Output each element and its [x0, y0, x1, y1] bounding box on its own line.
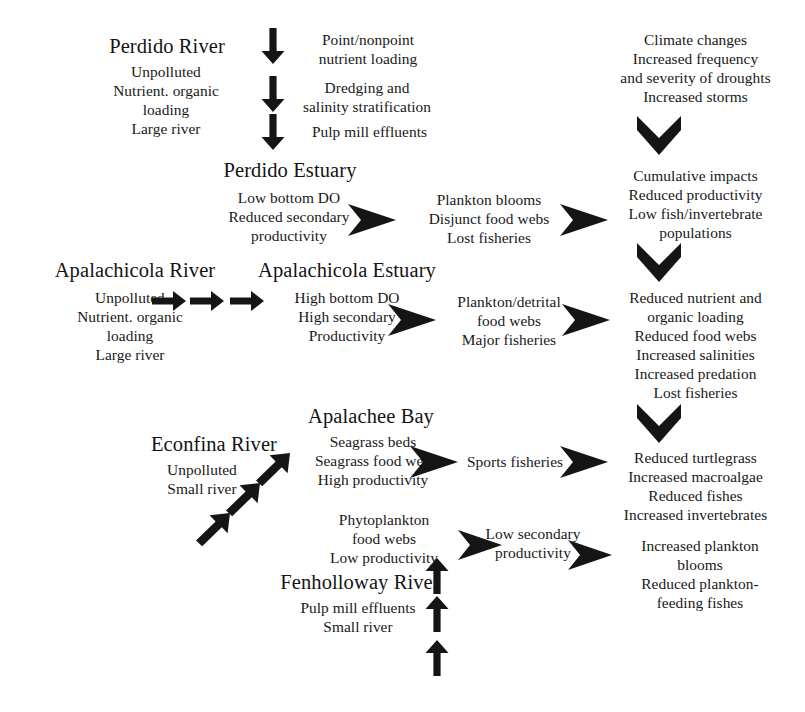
econfina-diagonal-arrow-1	[196, 513, 232, 547]
node-climate-changes: Climate changes Increased frequency and …	[588, 30, 803, 106]
node-perdido-effects: Plankton blooms Disjunct food webs Lost …	[398, 190, 580, 247]
node-apalachicola-river-heading: Apalachicola River	[30, 258, 240, 283]
node-fenholloway-river-heading: Fenholloway River	[250, 570, 470, 595]
node-perdido-river-heading: Perdido River	[72, 34, 262, 59]
node-perdido-stressors-3: Pulp mill effluents	[287, 122, 452, 141]
apalachicola-right-arrow-1	[152, 291, 186, 311]
diagram-canvas: Perdido River Unpolluted Nutrient. organ…	[0, 0, 805, 712]
node-perdido-estuary-heading: Perdido Estuary	[190, 158, 390, 183]
cumulative-down-chevron	[636, 243, 682, 283]
node-cumulative-impacts: Cumulative impacts Reduced productivity …	[588, 166, 803, 242]
node-perdido-stressors-1: Point/nonpoint nutrient loading	[288, 30, 448, 68]
perdido-down-arrow-3	[260, 114, 286, 150]
econfina-diagonal-arrow-3	[256, 453, 292, 487]
climate-down-chevron	[636, 116, 682, 156]
perdido-estuary-right-chevron-1	[348, 202, 396, 238]
sports-fisheries-right-chevron-2	[560, 444, 608, 480]
apalachicola-effects-right-chevron-2	[562, 302, 610, 338]
node-reduced-turtlegrass: Reduced turtlegrass Increased macroalgae…	[588, 448, 803, 524]
reduced-nutrient-down-chevron	[636, 404, 682, 444]
fenholloway-up-arrow-3	[424, 640, 450, 676]
node-apalachee-bay-heading: Apalachee Bay	[276, 404, 466, 429]
apalachee-bay-right-chevron-1	[410, 444, 458, 480]
node-fenholloway-river-body: Pulp mill effluents Small river	[258, 598, 458, 636]
node-perdido-stressors-2: Dredging and salinity stratification	[278, 78, 456, 116]
econfina-diagonal-arrow-2	[226, 483, 262, 517]
low-secondary-right-chevron	[568, 538, 612, 572]
node-apalachicola-estuary-heading: Apalachicola Estuary	[232, 258, 462, 283]
node-reduced-nutrient: Reduced nutrient and organic loading Red…	[588, 288, 803, 403]
apalachicola-right-arrow-2	[190, 291, 224, 311]
perdido-down-arrow-1	[260, 28, 286, 64]
node-perdido-river-body: Unpolluted Nutrient. organic loading Lar…	[66, 62, 266, 138]
node-increased-plankton: Increased plankton blooms Reduced plankt…	[600, 536, 800, 612]
